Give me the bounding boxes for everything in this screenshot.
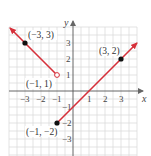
point-label: (−1, 1) xyxy=(26,79,52,90)
x-tick-label: 3 xyxy=(119,94,124,104)
x-tick-label: −3 xyxy=(20,94,30,104)
x-tick-label: 1 xyxy=(87,94,92,104)
x-tick-label: 2 xyxy=(103,94,108,104)
y-tick-label: −3 xyxy=(62,134,72,144)
y-tick-label: −2 xyxy=(62,118,72,128)
point-neg1-1-open xyxy=(55,73,60,78)
y-tick-label: 1 xyxy=(66,70,71,80)
y-tick-label: 2 xyxy=(66,54,71,64)
y-tick-label: 3 xyxy=(66,38,71,48)
graph: x y −3 −2 −1 1 2 3 3 2 1 −1 −2 −3 (−3, 3… xyxy=(0,0,151,156)
point-neg3-3 xyxy=(22,40,27,45)
point-3-2 xyxy=(118,56,123,61)
y-axis-label: y xyxy=(63,17,69,28)
point-label: (3, 2) xyxy=(99,46,120,57)
x-tick-label: −1 xyxy=(52,94,62,104)
point-neg1-neg2 xyxy=(54,120,59,125)
x-tick-label: −2 xyxy=(36,94,46,104)
point-label: (−3, 3) xyxy=(28,30,54,41)
point-label: (−1, −2) xyxy=(26,127,57,138)
x-axis-label: x xyxy=(141,93,147,104)
